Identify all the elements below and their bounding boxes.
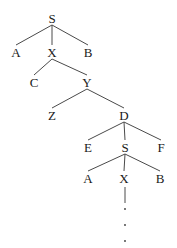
tree-node-y: Y <box>82 75 92 90</box>
tree-node-d: D <box>119 108 128 123</box>
tree-node-a: A <box>11 45 21 60</box>
tree-node-s: S <box>121 140 128 155</box>
nodes-layer: SAXBCYZDESFAXB <box>11 11 164 186</box>
tree-node-c: C <box>30 75 39 90</box>
tree-node-s: S <box>48 11 55 26</box>
tree-edge <box>16 25 52 45</box>
tree-node-a: A <box>83 171 93 186</box>
ellipsis-dot <box>124 208 126 210</box>
tree-edge <box>52 25 88 45</box>
tree-node-e: E <box>84 140 92 155</box>
tree-node-x: X <box>47 45 57 60</box>
tree-edge <box>88 154 125 171</box>
tree-edge <box>52 59 87 75</box>
continuation-layer <box>124 187 126 242</box>
tree-edge <box>124 154 125 171</box>
tree-edge <box>87 89 124 108</box>
ellipsis-dot <box>124 240 126 242</box>
tree-diagram: SAXBCYZDESFAXB <box>0 0 177 248</box>
tree-node-b: B <box>156 171 165 186</box>
tree-node-f: F <box>157 140 164 155</box>
tree-edge <box>34 59 52 75</box>
tree-edge <box>124 122 125 140</box>
tree-node-z: Z <box>48 108 56 123</box>
tree-edge <box>88 122 124 140</box>
ellipsis-dot <box>124 224 126 226</box>
tree-edge <box>125 154 160 171</box>
tree-node-x: X <box>119 171 129 186</box>
tree-node-b: B <box>84 45 93 60</box>
tree-edge <box>52 89 87 108</box>
tree-edge <box>124 122 161 140</box>
